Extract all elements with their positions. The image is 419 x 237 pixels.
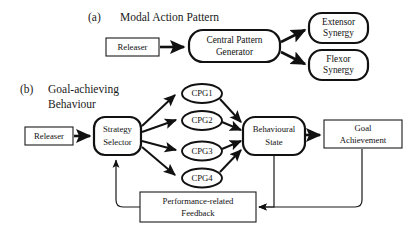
extensor-label-line1: Extensor (322, 17, 356, 27)
panel-a-releaser-label: Releaser (118, 42, 148, 52)
panel-b-caption-line2: Behaviour (48, 98, 96, 110)
edge-cpg2-to-state (222, 122, 241, 130)
edge-strategy-to-cpg4 (142, 147, 175, 175)
diagram-svg: (a) Modal Action Pattern Releaser Centra… (0, 0, 419, 237)
cpg-label-line1: Central Pattern (206, 35, 262, 45)
behavioural-state-line1: Behavioural (253, 124, 296, 134)
flexor-label-line1: Flexor (326, 54, 351, 64)
edge-cpg-to-flexor (281, 52, 305, 64)
edge-cpg1-to-state (220, 99, 241, 122)
edge-strategy-to-cpg3 (142, 141, 176, 150)
goal-achievement-line1: Goal (355, 123, 372, 133)
edge-cpg3-to-state (222, 141, 241, 149)
strategy-selector-line2: Selector (103, 137, 132, 147)
cpg2-label: CPG2 (191, 115, 212, 125)
goal-achievement-line2: Achievement (340, 135, 387, 145)
strategy-selector-line1: Strategy (103, 124, 133, 134)
panel-b-label: (b) (20, 83, 34, 96)
behavioural-state-box (243, 117, 305, 155)
cpg3-label: CPG3 (191, 146, 212, 156)
edge-cpg4-to-state (220, 150, 241, 172)
panel-b-caption-line1: Goal-achieving (48, 83, 119, 96)
extensor-label-line2: Synergy (323, 28, 354, 38)
behavioural-state-line2: State (265, 137, 283, 147)
cpg4-label: CPG4 (191, 173, 213, 183)
edge-state-to-feedback (259, 156, 274, 207)
feedback-line2: Feedback (181, 208, 215, 218)
strategy-selector-box (94, 117, 141, 155)
panel-b-releaser-label: Releaser (34, 131, 64, 141)
edge-cpg-to-extensor (281, 30, 305, 42)
panel-a-label: (a) (88, 11, 101, 24)
cpg1-label: CPG1 (191, 88, 212, 98)
feedback-line1: Performance-related (163, 196, 235, 206)
cpg-label-line2: Generator (216, 47, 254, 57)
panel-a-caption: Modal Action Pattern (120, 11, 219, 23)
flexor-label-line2: Synergy (323, 65, 354, 75)
figure-container: (a) Modal Action Pattern Releaser Centra… (0, 0, 419, 237)
edge-feedback-to-strategy (116, 160, 140, 207)
